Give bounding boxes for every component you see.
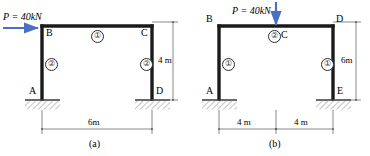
caption-a: (a) xyxy=(89,139,100,149)
joint-label-C-a: C xyxy=(141,28,148,38)
joint-label-C-b: C xyxy=(281,30,288,40)
joint-label-A-b: A xyxy=(206,86,213,96)
figure-a: P = 40kN B C A D ① ② ② 4 m 6m (a) xyxy=(0,0,185,156)
support-fixed-D xyxy=(135,100,170,110)
member-tag-column-DE-b: ① xyxy=(321,58,334,71)
caption-b: (b) xyxy=(269,139,281,149)
dimension-label-span-right-b: 4 m xyxy=(294,118,308,127)
joint-label-E-b: E xyxy=(337,86,343,96)
figure-page: P = 40kN B C A D ① ② ② 4 m 6m (a) xyxy=(0,0,370,156)
load-label-a: P = 40kN xyxy=(3,12,42,22)
member-tag-column-AB-b: ① xyxy=(222,58,235,71)
dimension-label-height-a: 4 m xyxy=(158,56,172,65)
support-fixed-A xyxy=(25,100,60,110)
member-tag-beam-b: ② xyxy=(268,30,281,43)
figure-a-drawing xyxy=(0,0,185,156)
member-tag-beam-a: ① xyxy=(91,30,104,43)
member-tag-column-CD-a: ② xyxy=(140,58,153,71)
load-label-b: P = 40kN xyxy=(232,6,271,16)
joint-label-D-a: D xyxy=(156,86,163,96)
figure-b: P = 40kN B C D A E ② ① ① 6m 4 m 4 m (b) xyxy=(185,0,370,156)
dimension-label-span-a: 6m xyxy=(88,118,100,127)
member-tag-column-AB-a: ② xyxy=(45,58,58,71)
dimension-label-height-b: 6m xyxy=(341,56,353,65)
joint-label-B-b: B xyxy=(206,14,213,24)
joint-label-A-a: A xyxy=(29,86,36,96)
joint-label-B-a: B xyxy=(46,28,53,38)
dimension-label-span-left-b: 4 m xyxy=(237,118,251,127)
support-fixed-A-b xyxy=(202,100,237,110)
joint-label-D-b: D xyxy=(336,14,343,24)
support-fixed-E-b xyxy=(316,100,351,110)
